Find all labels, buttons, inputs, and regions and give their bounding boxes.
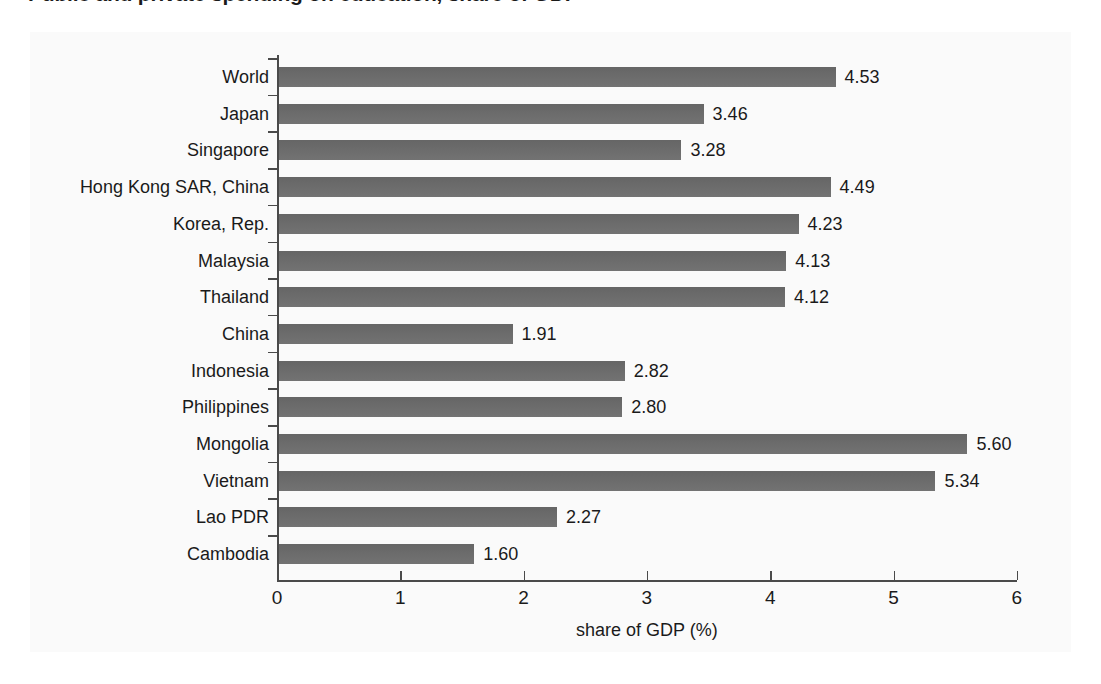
bar-row: Hong Kong SAR, China4.49 — [0, 177, 1101, 197]
bar-row: Malaysia4.13 — [0, 251, 1101, 271]
x-axis-tick-label: 4 — [765, 587, 776, 609]
category-label: Lao PDR — [196, 507, 269, 528]
x-axis-tick — [770, 571, 772, 580]
category-label: Philippines — [182, 397, 269, 418]
y-axis-tick — [268, 168, 277, 170]
y-axis-tick — [268, 131, 277, 133]
bar-row: Vietnam5.34 — [0, 471, 1101, 491]
bar-row: Thailand4.12 — [0, 287, 1101, 307]
bar — [277, 544, 474, 564]
bar-row: Lao PDR2.27 — [0, 507, 1101, 527]
bar-value-label: 2.27 — [566, 507, 601, 528]
x-axis-tick-label: 5 — [888, 587, 899, 609]
x-axis-tick — [524, 571, 526, 580]
bar-value-label: 4.13 — [795, 250, 830, 271]
category-label: Singapore — [187, 140, 269, 161]
x-axis-tick — [894, 571, 896, 580]
x-axis-tick-label: 0 — [272, 587, 283, 609]
bar-value-label: 2.82 — [634, 360, 669, 381]
y-axis-tick — [268, 205, 277, 207]
bar — [277, 214, 799, 234]
x-axis-tick — [647, 571, 649, 580]
bar-value-label: 4.53 — [845, 67, 880, 88]
bar-row: Indonesia2.82 — [0, 361, 1101, 381]
bar — [277, 507, 557, 527]
bar-row: Mongolia5.60 — [0, 434, 1101, 454]
bar-value-label: 1.91 — [522, 323, 557, 344]
bar — [277, 361, 625, 381]
bar-value-label: 4.23 — [808, 213, 843, 234]
y-axis-tick — [268, 425, 277, 427]
category-label: Cambodia — [187, 544, 269, 565]
bar — [277, 397, 622, 417]
bar-value-label: 4.49 — [840, 177, 875, 198]
bar-row: Philippines2.80 — [0, 397, 1101, 417]
y-axis-tick — [268, 535, 277, 537]
y-axis-tick — [268, 388, 277, 390]
bar — [277, 177, 831, 197]
bar-row: Korea, Rep.4.23 — [0, 214, 1101, 234]
bar-row: Singapore3.28 — [0, 140, 1101, 160]
y-axis-tick — [268, 498, 277, 500]
bar — [277, 104, 704, 124]
bar — [277, 251, 786, 271]
y-axis-tick — [268, 58, 277, 60]
bar-value-label: 5.60 — [976, 434, 1011, 455]
x-axis-tick — [400, 571, 402, 580]
bar-row: China1.91 — [0, 324, 1101, 344]
y-axis-tick — [268, 95, 277, 97]
category-label: Hong Kong SAR, China — [80, 177, 269, 198]
bar — [277, 287, 785, 307]
x-axis-line — [277, 580, 1017, 582]
bar-value-label: 2.80 — [631, 397, 666, 418]
category-label: Indonesia — [191, 360, 269, 381]
category-label: Malaysia — [198, 250, 269, 271]
bar-row: World4.53 — [0, 67, 1101, 87]
y-axis-tick — [268, 462, 277, 464]
bar-value-label: 4.12 — [794, 287, 829, 308]
category-label: China — [222, 323, 269, 344]
bar — [277, 434, 967, 454]
x-axis-tick-label: 3 — [642, 587, 653, 609]
bar-value-label: 3.28 — [690, 140, 725, 161]
category-label: Korea, Rep. — [173, 213, 269, 234]
bar — [277, 140, 681, 160]
category-label: Japan — [220, 103, 269, 124]
category-label: Thailand — [200, 287, 269, 308]
y-axis-tick — [268, 352, 277, 354]
category-label: Mongolia — [196, 434, 269, 455]
bar-row: Japan3.46 — [0, 104, 1101, 124]
x-axis-tick — [277, 571, 279, 580]
y-axis-tick — [268, 242, 277, 244]
y-axis-tick — [268, 315, 277, 317]
bar — [277, 67, 836, 87]
x-axis-tick-label: 1 — [395, 587, 406, 609]
chart-figure: Public and private spending on education… — [0, 0, 1101, 684]
plot-area: World4.53Japan3.46Singapore3.28Hong Kong… — [0, 0, 1101, 684]
bar — [277, 471, 935, 491]
category-label: World — [222, 67, 269, 88]
bar-value-label: 5.34 — [944, 470, 979, 491]
x-axis-title: share of GDP (%) — [576, 620, 718, 641]
bar-value-label: 1.60 — [483, 544, 518, 565]
x-axis-tick-label: 2 — [518, 587, 529, 609]
bar-value-label: 3.46 — [713, 103, 748, 124]
x-axis-tick — [1017, 571, 1019, 580]
x-axis-tick-label: 6 — [1012, 587, 1023, 609]
category-label: Vietnam — [203, 470, 269, 491]
y-axis-tick — [268, 278, 277, 280]
bar — [277, 324, 513, 344]
y-axis-line — [277, 55, 279, 580]
bar-row: Cambodia1.60 — [0, 544, 1101, 564]
